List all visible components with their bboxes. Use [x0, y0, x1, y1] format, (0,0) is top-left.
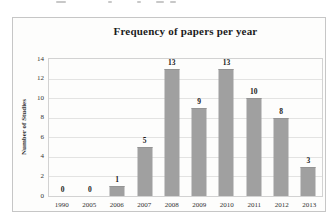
bar-value-label: 0: [49, 186, 76, 194]
bar-value-label: 3: [295, 157, 322, 165]
x-axis-tick-label: 2005: [76, 201, 104, 209]
x-axis-tick-label: 2010: [213, 201, 241, 209]
x-axis-tick-label: 1990: [48, 201, 76, 209]
chart-container: Frequency of papers per year Number of S…: [12, 17, 326, 212]
bar-value-label: 13: [213, 59, 240, 67]
y-axis-tick-label: 2: [19, 172, 44, 181]
bar-slot: 3: [295, 59, 322, 196]
bar-slot: 0: [49, 59, 76, 196]
bar: [137, 147, 152, 196]
bar-slot: 9: [185, 59, 212, 196]
bar: [192, 108, 207, 196]
bar-slot: 8: [267, 59, 294, 196]
x-axis-tick-label: 2007: [131, 201, 159, 209]
y-axis-label: Number of Studies: [20, 99, 28, 155]
bar-slot: 13: [213, 59, 240, 196]
page: Frequency of papers per year Number of S…: [0, 0, 335, 223]
y-axis-tick-label: 14: [19, 55, 44, 64]
y-axis-tick-label: 0: [19, 192, 44, 201]
y-axis-tick-label: 10: [19, 94, 44, 103]
x-axis-tick-labels: 1990200520062007200820092010201120122013: [48, 201, 323, 209]
bar: [301, 167, 316, 196]
x-axis-tick-label: 2013: [296, 201, 324, 209]
cropped-text-fragment: [156, 1, 164, 3]
bar: [219, 69, 234, 196]
plot-area: 0015139131083: [48, 58, 323, 197]
y-axis-tick-label: 12: [19, 74, 44, 83]
bar-slot: 13: [158, 59, 185, 196]
bar-slot: 0: [76, 59, 103, 196]
chart-title: Frequency of papers per year: [48, 25, 323, 37]
bar-value-label: 10: [240, 88, 267, 96]
x-axis-tick-label: 2009: [186, 201, 214, 209]
cropped-text-fragment: [56, 1, 66, 3]
bar: [274, 118, 289, 196]
bar-value-label: 13: [158, 59, 185, 67]
bar: [164, 69, 179, 196]
bar-value-label: 1: [104, 176, 131, 184]
cropped-text-fragment: [137, 1, 141, 3]
bar-series: 0015139131083: [49, 59, 322, 196]
bar-value-label: 0: [76, 186, 103, 194]
bar-slot: 1: [104, 59, 131, 196]
bar: [246, 98, 261, 196]
bar-slot: 10: [240, 59, 267, 196]
bar-slot: 5: [131, 59, 158, 196]
x-axis-tick-label: 2011: [241, 201, 269, 209]
x-axis-tick-label: 2006: [103, 201, 131, 209]
y-axis-tick-label: 4: [19, 152, 44, 161]
y-axis-tick-label: 6: [19, 133, 44, 142]
cropped-text-fragment: [170, 1, 176, 3]
bar-value-label: 5: [131, 137, 158, 145]
x-axis-tick-label: 2008: [158, 201, 186, 209]
bar-value-label: 8: [267, 108, 294, 116]
bar-value-label: 9: [185, 98, 212, 106]
bar: [110, 186, 125, 196]
x-axis-tick-label: 2012: [268, 201, 296, 209]
cropped-text-fragment: [108, 1, 112, 3]
y-axis-tick-label: 8: [19, 113, 44, 122]
